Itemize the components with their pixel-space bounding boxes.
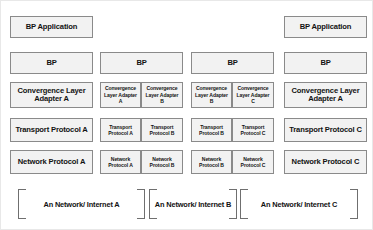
stack-3-network-label-b: Network Protocol B xyxy=(194,156,229,169)
stack-2-bp-box: BP xyxy=(100,52,183,74)
stack-3-transport-label-b: Transport Protocol B xyxy=(194,124,229,137)
network-internet-b-label: An Network/ Internet B xyxy=(155,200,231,209)
stack-2-convergence-layer-box-a: Convergence Layer Adapter A xyxy=(100,82,141,108)
stack-2-convergence-layer-label-b: Convergence Layer Adapter B xyxy=(144,85,180,104)
stack-2-transport-box-a: Transport Protocol A xyxy=(100,118,141,142)
stack-2-transport-label-b: Transport Protocol B xyxy=(144,124,180,137)
stack-1-convergence-layer-box: Convergence Layer Adapter A xyxy=(10,82,93,108)
stack-2-bp-label: BP xyxy=(136,59,146,68)
stack-3-bp-label: BP xyxy=(227,59,237,68)
bracket-right-edge-c xyxy=(350,189,358,219)
bracket-left-edge-c xyxy=(240,189,248,219)
stack-4-convergence-layer-box: Convergence Layer Adapter A xyxy=(284,82,367,108)
stack-4-convergence-layer-label: Convergence Layer Adapter A xyxy=(287,87,364,104)
bracket-left-edge-a xyxy=(18,189,26,219)
stack-3-transport-box-b: Transport Protocol B xyxy=(191,118,232,142)
stack-2-network-label-b: Network Protocol B xyxy=(144,156,180,169)
stack-4-application-box: BP Application xyxy=(284,16,367,38)
stack-3-network-label-c: Network Protocol C xyxy=(235,156,271,169)
stack-3-convergence-layer-box-c: Convergence Layer Adapter C xyxy=(232,82,274,108)
stack-1-transport-box: Transport Protocol A xyxy=(10,118,93,142)
stack-1-application-label: BP Application xyxy=(26,23,77,32)
network-internet-a-bracket: An Network/ Internet A xyxy=(18,189,145,219)
stack-4-transport-box: Transport Protocol C xyxy=(284,118,367,142)
stack-4-network-label: Network Protocol C xyxy=(292,158,360,167)
bracket-right-edge-a xyxy=(137,189,145,219)
stack-2-network-box-b: Network Protocol B xyxy=(141,150,183,174)
stack-2-convergence-layer-label-a: Convergence Layer Adapter A xyxy=(103,85,138,104)
stack-1-bp-label: BP xyxy=(46,59,56,68)
bp-architecture-diagram: BP Application BP Application BP BP BP B… xyxy=(0,0,373,230)
stack-3-convergence-layer-label-c: Convergence Layer Adapter C xyxy=(235,85,271,104)
stack-2-transport-label-a: Transport Protocol A xyxy=(103,124,138,137)
network-internet-c-bracket: An Network/ Internet C xyxy=(240,189,358,219)
stack-2-transport-box-b: Transport Protocol B xyxy=(141,118,183,142)
stack-2-convergence-layer-box-b: Convergence Layer Adapter B xyxy=(141,82,183,108)
stack-1-convergence-layer-label: Convergence Layer Adapter A xyxy=(13,87,90,104)
network-internet-c-label: An Network/ Internet C xyxy=(261,200,337,209)
stack-3-network-box-c: Network Protocol C xyxy=(232,150,274,174)
stack-3-network-box-b: Network Protocol B xyxy=(191,150,232,174)
stack-4-transport-label: Transport Protocol C xyxy=(289,126,362,135)
stack-4-network-box: Network Protocol C xyxy=(284,150,367,174)
stack-3-bp-box: BP xyxy=(191,52,274,74)
stack-1-network-box: Network Protocol A xyxy=(10,150,93,174)
stack-1-bp-box: BP xyxy=(10,52,93,74)
stack-4-application-label: BP Application xyxy=(300,23,351,32)
stack-3-convergence-layer-label-b: Convergence Layer Adapter B xyxy=(194,85,229,104)
stack-3-transport-label-c: Transport Protocol C xyxy=(235,124,271,137)
stack-3-transport-box-c: Transport Protocol C xyxy=(232,118,274,142)
stack-1-transport-label: Transport Protocol A xyxy=(15,126,87,135)
stack-4-bp-label: BP xyxy=(320,59,330,68)
stack-2-network-box-a: Network Protocol A xyxy=(100,150,141,174)
stack-1-application-box: BP Application xyxy=(10,16,93,38)
stack-2-network-label-a: Network Protocol A xyxy=(103,156,138,169)
stack-4-bp-box: BP xyxy=(284,52,367,74)
network-internet-b-bracket: An Network/ Internet B xyxy=(149,189,237,219)
stack-1-network-label: Network Protocol A xyxy=(18,158,85,167)
network-internet-a-label: An Network/ Internet A xyxy=(43,200,119,209)
stack-3-convergence-layer-box-b: Convergence Layer Adapter B xyxy=(191,82,232,108)
